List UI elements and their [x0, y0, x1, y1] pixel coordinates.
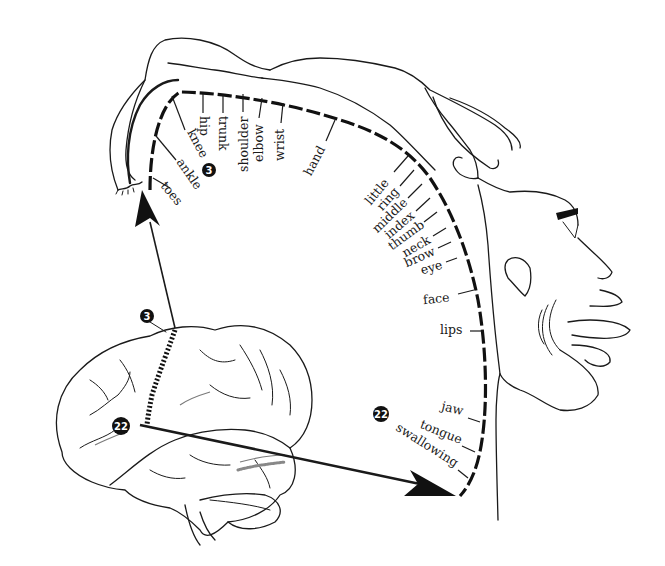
- label-elbow: elbow: [251, 124, 266, 162]
- homunculus-diagram: toes ankle knee hip trunk shoulder elbow…: [0, 0, 665, 566]
- homunculus-head: [478, 178, 630, 520]
- label-face: face: [422, 290, 450, 308]
- badge-strip-3: 3: [202, 163, 216, 177]
- homunculus-arm-hand: [262, 58, 520, 179]
- label-shoulder: shoulder: [236, 117, 251, 172]
- label-trunk: trunk: [216, 116, 231, 151]
- svg-text:22: 22: [114, 421, 128, 432]
- label-jaw: jaw: [438, 398, 465, 418]
- svg-text:22: 22: [374, 409, 388, 420]
- label-wrist: wrist: [272, 129, 287, 161]
- svg-text:3: 3: [144, 311, 151, 322]
- label-hip: hip: [197, 116, 212, 136]
- label-lips: lips: [440, 322, 462, 337]
- svg-text:3: 3: [206, 165, 213, 176]
- label-hand: hand: [300, 143, 328, 178]
- label-ankle: ankle: [174, 155, 206, 192]
- arrow-to-leg: [135, 190, 175, 328]
- badge-brain-22: 22: [112, 417, 130, 435]
- badge-strip-22: 22: [373, 406, 389, 422]
- badge-brain-3: 3: [140, 309, 154, 323]
- arrowhead-up-icon: [135, 190, 160, 227]
